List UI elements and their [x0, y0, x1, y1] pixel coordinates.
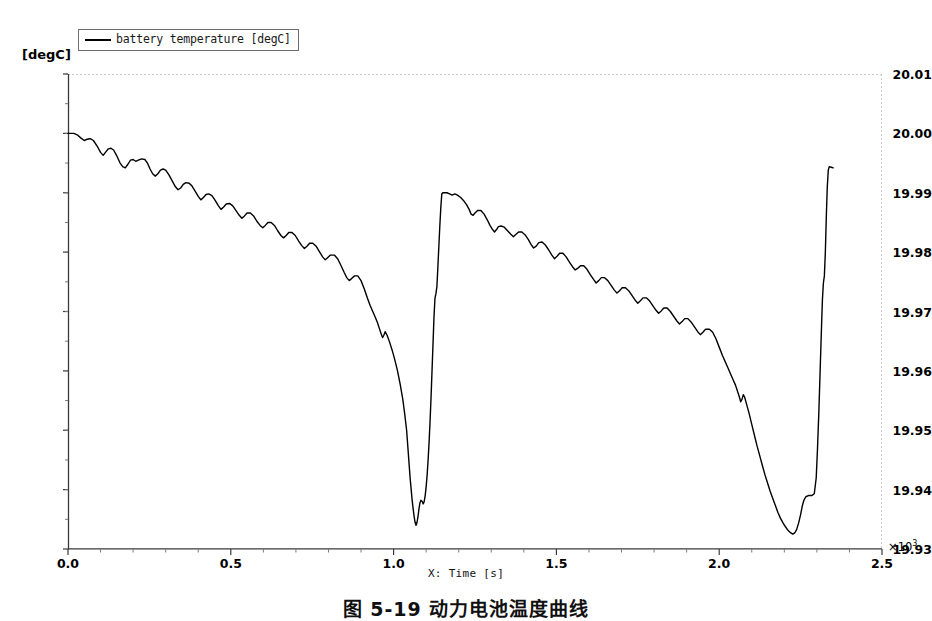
plot-frame: [68, 74, 882, 549]
y-tick-label: 19.95: [878, 423, 932, 438]
x-axis-exponent: ×103: [888, 539, 917, 554]
y-tick-label: 19.94: [878, 482, 932, 497]
legend-label: battery temperature [degC]: [116, 34, 291, 46]
y-tick-label: 20.00: [878, 126, 932, 141]
y-tick-label: 20.01: [878, 67, 932, 82]
y-tick-label: 19.97: [878, 304, 932, 319]
y-axis-ticks: [63, 74, 68, 549]
legend-line-swatch: [85, 39, 111, 41]
x-axis-title: X: Time [s]: [0, 567, 932, 580]
y-tick-label: 19.98: [878, 245, 932, 260]
y-axis-unit-label: [degC]: [22, 47, 71, 62]
axis-lines: [68, 74, 882, 550]
y-tick-label: 19.96: [878, 363, 932, 378]
x-axis-ticks: [68, 549, 882, 555]
y-tick-label: 19.99: [878, 185, 932, 200]
figure-caption: 图 5-19 动力电池温度曲线: [0, 594, 932, 621]
x-exponent-prefix: ×10: [888, 540, 912, 554]
temperature-curve: [68, 133, 833, 534]
chart-legend: battery temperature [degC]: [78, 29, 299, 51]
x-exponent-power: 3: [912, 539, 917, 548]
